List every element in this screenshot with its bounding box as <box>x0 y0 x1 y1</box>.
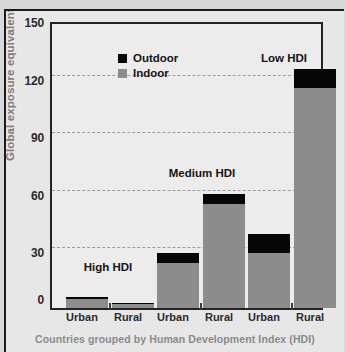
legend-swatch-outdoor-icon <box>118 54 127 63</box>
bar-medium-hdi-rural <box>203 194 245 308</box>
y-axis-tick-60: 60 <box>4 189 44 203</box>
bar-high-hdi-urban <box>66 297 108 308</box>
x-axis-tick-label-6: Rural <box>283 311 337 323</box>
bar-segment-indoor <box>294 88 336 308</box>
x-axis-tickmark-2 <box>200 303 202 310</box>
bar-low-hdi-rural <box>294 69 336 308</box>
legend-label-outdoor: Outdoor <box>133 52 178 64</box>
x-axis-tickmark-3 <box>291 303 293 310</box>
gridline-120 <box>52 75 321 76</box>
plot-area: Outdoor Indoor High HDI Medium HDI Low H… <box>50 22 323 310</box>
plot-inner: Outdoor Indoor High HDI Medium HDI Low H… <box>52 24 321 308</box>
y-axis-tick-150: 150 <box>4 16 44 30</box>
y-axis-tick-90: 90 <box>4 131 44 145</box>
y-axis-tick-30: 30 <box>4 246 44 260</box>
bar-segment-indoor <box>248 253 290 308</box>
y-axis-tick-0: 0 <box>4 293 44 307</box>
bar-medium-hdi-urban <box>157 253 199 308</box>
legend-label-indoor: Indoor <box>133 67 169 79</box>
bar-segment-indoor <box>66 299 108 308</box>
group-label-medium-hdi: Medium HDI <box>152 167 252 179</box>
x-axis-tickmark-1 <box>109 303 111 310</box>
x-axis-title: Countries grouped by Human Development I… <box>6 333 344 345</box>
bar-low-hdi-urban <box>248 234 290 308</box>
bar-segment-indoor <box>112 304 154 308</box>
bar-segment-indoor <box>157 263 199 308</box>
legend: Outdoor Indoor <box>118 52 178 82</box>
gridline-60 <box>52 190 321 191</box>
legend-swatch-indoor-icon <box>118 69 127 78</box>
y-axis-tick-120: 120 <box>4 74 44 88</box>
legend-item-outdoor: Outdoor <box>118 52 178 64</box>
bar-high-hdi-rural <box>112 303 154 308</box>
group-label-high-hdi: High HDI <box>60 261 156 273</box>
bar-segment-indoor <box>203 204 245 308</box>
bar-segment-outdoor <box>248 234 290 253</box>
bar-segment-outdoor <box>203 194 245 204</box>
group-label-low-hdi: Low HDI <box>242 52 326 64</box>
legend-item-indoor: Indoor <box>118 67 178 79</box>
bar-segment-outdoor <box>294 69 336 88</box>
bar-segment-outdoor <box>157 253 199 263</box>
gridline-90 <box>52 132 321 133</box>
chart-figure-frame: Global exposure equivalent 150 120 90 60… <box>4 9 344 352</box>
